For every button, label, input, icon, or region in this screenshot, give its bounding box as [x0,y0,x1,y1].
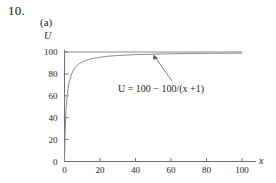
data-curve [65,53,243,161]
y-axis-tick-labels: 020406080100 [44,47,58,167]
plot-canvas: 020406080100 020406080100 [0,0,276,183]
y-tick-label: 60 [49,91,59,101]
y-tick-label: 40 [49,113,59,123]
x-tick-label: 40 [131,165,141,175]
x-tick-label: 20 [96,165,106,175]
x-tick-label: 100 [235,165,249,175]
x-axis-ticks [65,158,243,162]
y-tick-label: 0 [53,157,58,167]
annotation-leader-line [153,55,172,81]
x-axis-tick-labels: 020406080100 [62,165,249,175]
x-tick-label: 60 [167,165,177,175]
figure-root: 10. (a) U x U = 100 − 100/(x +1) 0204060… [0,0,276,183]
y-tick-label: 100 [44,47,58,57]
x-tick-label: 80 [202,165,212,175]
y-tick-label: 80 [49,69,59,79]
x-tick-label: 0 [62,165,67,175]
y-tick-label: 20 [49,135,59,145]
